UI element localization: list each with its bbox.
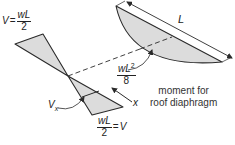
moment-max-num: wL <box>118 63 131 74</box>
shear-top-den: 2 <box>21 22 27 33</box>
moment-max-sup: 2 <box>131 62 135 69</box>
shear-bottom-den: 2 <box>102 128 108 139</box>
shear-bottom-label: wL 2 =V <box>97 116 126 138</box>
span-extension-left <box>116 1 125 6</box>
caption-line-1: moment for <box>150 85 217 97</box>
vx-label: Vx <box>48 100 58 112</box>
x-axis-label: x <box>133 98 138 108</box>
moment-caption: moment for roof diaphragm <box>150 85 217 109</box>
span-label: L <box>178 14 184 25</box>
shear-positive-triangle <box>15 34 68 76</box>
caption-line-2: roof diaphragm <box>150 97 217 109</box>
shear-bottom-rhs: V <box>120 121 127 132</box>
shear-top-num: wL <box>17 10 32 22</box>
moment-parabola <box>116 6 222 63</box>
shear-bottom-num: wL <box>97 116 112 128</box>
vx-leader-line <box>58 97 84 109</box>
shear-top-eq: = <box>10 15 16 26</box>
span-extension-right <box>222 57 232 62</box>
shear-top-lhs: V <box>2 15 9 26</box>
x-direction-arrow <box>112 88 132 102</box>
shear-top-label: V= wL 2 <box>2 10 31 32</box>
shear-bottom-eq: = <box>113 121 119 132</box>
shear-negative-triangle <box>68 76 123 115</box>
moment-max-label: wL2 8 <box>117 62 136 86</box>
moment-max-den: 8 <box>124 76 130 87</box>
